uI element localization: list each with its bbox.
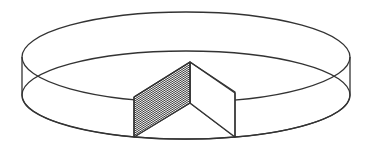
wedge-right-face	[190, 62, 235, 137]
cylinder-wedge-diagram	[0, 0, 368, 150]
bottom-front-arc-right	[235, 95, 350, 137]
bottom-front-arc-left	[22, 95, 134, 137]
